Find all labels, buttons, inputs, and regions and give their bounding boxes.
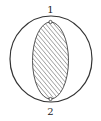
- inner-hatched-ellipse: [33, 22, 69, 99]
- label-top: 1: [47, 4, 53, 15]
- diagram-figure: 1 2: [0, 0, 101, 121]
- label-bottom: 2: [47, 106, 53, 117]
- node-1: [49, 20, 52, 23]
- node-2: [49, 97, 52, 100]
